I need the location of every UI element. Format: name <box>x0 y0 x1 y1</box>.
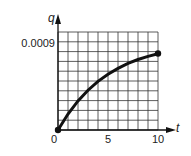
x-axis-arrow-icon <box>166 127 176 133</box>
y-axis-arrow-icon <box>55 14 61 24</box>
x-tick-label-0: 0 <box>51 133 57 145</box>
grid <box>58 32 158 130</box>
y-axis-label: q <box>48 11 55 25</box>
x-tick-label-10: 10 <box>152 133 164 145</box>
x-tick-label-5: 5 <box>105 133 111 145</box>
charge-vs-time-chart: q t 0.0009 0 5 10 <box>0 0 191 156</box>
end-point <box>155 50 161 56</box>
x-axis-label: t <box>176 121 180 135</box>
y-tick-label: 0.0009 <box>21 37 55 49</box>
